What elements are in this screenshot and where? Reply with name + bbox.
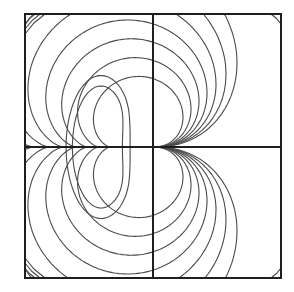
corner-contour-arc [25, 14, 45, 34]
contour-diagram [0, 0, 294, 292]
corner-contour-arc [25, 258, 45, 278]
corner-contour-arc [271, 268, 281, 278]
corner-contour-arc [271, 14, 281, 24]
